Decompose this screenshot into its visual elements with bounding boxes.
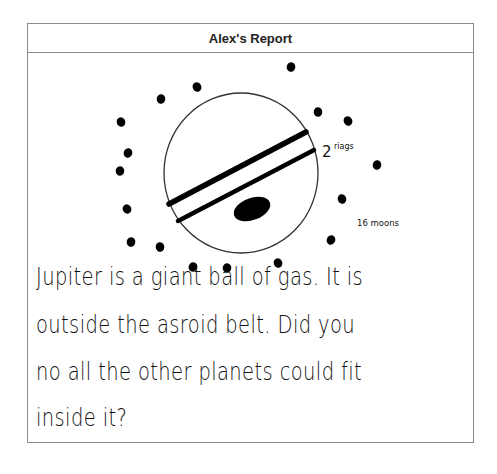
rings-count-number: 2 bbox=[322, 143, 332, 161]
moon-dot bbox=[313, 107, 323, 117]
moon-dot bbox=[372, 160, 382, 171]
text-line-3: no all the other planets could fit bbox=[36, 357, 362, 386]
text-line-4: inside it? bbox=[36, 403, 127, 432]
moon-dot bbox=[337, 193, 348, 204]
moons-label: 16 moons bbox=[357, 218, 400, 228]
moon-dot bbox=[285, 61, 296, 73]
moon-dot bbox=[156, 94, 166, 105]
moon-dot bbox=[155, 241, 165, 252]
text-line-1: Jupiter is a giant ball of gas. It is bbox=[36, 262, 363, 291]
moon-dot bbox=[325, 234, 337, 246]
moon-dot bbox=[122, 147, 133, 159]
great-red-spot bbox=[230, 192, 273, 226]
text-line-2: outside the asroid belt. Did you bbox=[36, 310, 355, 339]
moon-dot bbox=[121, 203, 133, 215]
moon-dot bbox=[116, 166, 125, 176]
planet-outline bbox=[164, 93, 318, 253]
moon-dot bbox=[116, 116, 127, 128]
ring-1 bbox=[169, 132, 306, 204]
moon-dot bbox=[126, 236, 136, 247]
rings-label: riags bbox=[334, 142, 354, 151]
moon-dot bbox=[191, 81, 203, 94]
moon-dot bbox=[342, 115, 354, 128]
